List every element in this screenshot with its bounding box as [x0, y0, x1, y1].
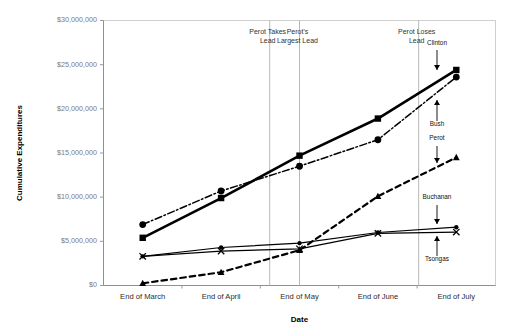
- data-point-marker: [139, 221, 146, 228]
- y-tick-label: $30,000,000: [57, 15, 97, 24]
- x-tick-label: End of March: [120, 292, 165, 301]
- event-label-line1: Perot's: [287, 28, 309, 35]
- data-point-marker: [218, 188, 225, 195]
- data-point-marker: [218, 195, 224, 201]
- x-tick-label: End of May: [280, 292, 319, 301]
- callout-arrow-head: [434, 158, 440, 163]
- callout-arrow-head: [434, 65, 440, 70]
- series-callout-label: Perot: [429, 134, 444, 141]
- x-tick-label: End of April: [202, 292, 241, 301]
- data-point-marker: [296, 163, 303, 170]
- y-tick-label: $10,000,000: [57, 192, 97, 201]
- x-axis-ticks-group: End of MarchEnd of AprilEnd of MayEnd of…: [120, 286, 475, 301]
- data-point-marker: [375, 115, 381, 121]
- y-tick-label: $5,000,000: [61, 236, 97, 245]
- series-callout-label: Clinton: [427, 39, 447, 46]
- y-tick-label: $0: [89, 280, 97, 289]
- data-point-marker: [297, 241, 301, 245]
- expenditures-line-chart: $0$5,000,000$10,000,000$15,000,000$20,00…: [0, 0, 514, 330]
- data-point-marker: [140, 235, 146, 241]
- data-point-marker: [296, 152, 302, 158]
- event-label-line2: Largest Lead: [277, 37, 318, 45]
- y-axis-title: Cumulative Expenditures: [15, 104, 24, 201]
- x-axis-title: Date: [291, 315, 309, 324]
- data-point-marker: [453, 67, 459, 73]
- chart-canvas: $0$5,000,000$10,000,000$15,000,000$20,00…: [0, 0, 514, 330]
- callout-arrow-head: [434, 236, 440, 241]
- event-label-line2: Lead: [409, 37, 425, 44]
- event-lines-group: [270, 21, 419, 286]
- event-labels-group: Perot TakesLeadPerot'sLargest LeadPerot …: [249, 28, 436, 45]
- event-label-line2: Lead: [260, 37, 276, 44]
- x-tick-label: End of July: [438, 292, 476, 301]
- y-axis-ticks-group: $0$5,000,000$10,000,000$15,000,000$20,00…: [57, 15, 103, 289]
- x-tick-label: End of June: [358, 292, 399, 301]
- series-callout-label: Bush: [430, 120, 445, 127]
- series-callout-label: Buchanan: [423, 193, 452, 200]
- series-callout-label: Tsongas: [425, 255, 449, 263]
- callout-arrow-head: [434, 100, 440, 105]
- data-point-marker: [453, 74, 460, 81]
- data-point-marker: [453, 154, 460, 160]
- y-tick-label: $15,000,000: [57, 148, 97, 157]
- data-point-marker: [454, 225, 458, 229]
- data-point-marker: [375, 136, 382, 143]
- y-tick-label: $20,000,000: [57, 104, 97, 113]
- y-tick-label: $25,000,000: [57, 60, 97, 69]
- event-label-line1: Perot Takes: [249, 28, 286, 35]
- event-label-line1: Perot Loses: [398, 28, 436, 35]
- callout-arrow-head: [434, 219, 440, 224]
